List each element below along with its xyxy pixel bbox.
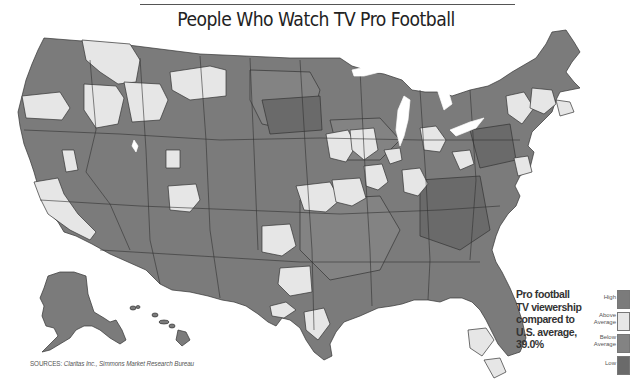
sources-note: SOURCES: Claritas Inc., Simmons Market R… — [30, 360, 194, 367]
legend-swatch-below-average — [617, 334, 630, 353]
map-regions — [18, 30, 580, 378]
alaska-inset — [40, 272, 126, 352]
region-above-average-utah-pocket — [166, 150, 180, 168]
region-above-average-florida-south — [484, 358, 506, 378]
region-low-dakotas — [262, 96, 322, 134]
legend-swatch-low — [617, 356, 630, 375]
sources-text: Claritas Inc., Simmons Market Research B… — [64, 360, 194, 367]
region-above-average-wyoming — [124, 82, 168, 122]
legend-item-below-average: Below Average — [590, 332, 628, 354]
legend-label: Low — [576, 360, 616, 367]
hawaii-inset — [130, 306, 190, 347]
legend-item-low: Low — [590, 354, 628, 376]
region-above-average-pacific-nw — [22, 92, 70, 120]
legend-item-high: High — [590, 288, 628, 310]
legend-swatch-above-average — [617, 312, 630, 331]
legend-label: High — [576, 294, 616, 301]
map-legend: High Above Average Below Average Low — [590, 288, 628, 376]
sources-prefix: SOURCES: — [30, 360, 62, 367]
region-above-average-massachusetts — [556, 100, 574, 116]
legend-swatch-high — [617, 290, 630, 309]
region-above-average-florida-north — [468, 328, 494, 356]
legend-label: Above Average — [576, 312, 616, 326]
legend-item-above-average: Above Average — [590, 310, 628, 332]
legend-label: Below Average — [576, 334, 616, 348]
